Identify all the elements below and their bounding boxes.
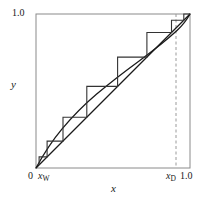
mccabe-thiele-figure: y x 1.0 0 xW xD 1.0	[0, 0, 207, 199]
y-axis-label: y	[11, 79, 16, 90]
x-axis-tick-1-0: 1.0	[180, 171, 193, 181]
x-bottoms-subscript: W	[42, 174, 49, 183]
y-axis-tick-1-0: 1.0	[12, 8, 25, 18]
x-distillate-subscript: D	[170, 174, 175, 183]
x-axis-label: x	[111, 183, 116, 194]
x-axis-tick-distillate: xD	[166, 171, 176, 181]
x-axis-tick-bottoms: xW	[38, 171, 50, 181]
x-axis-tick-origin: 0	[28, 171, 33, 181]
